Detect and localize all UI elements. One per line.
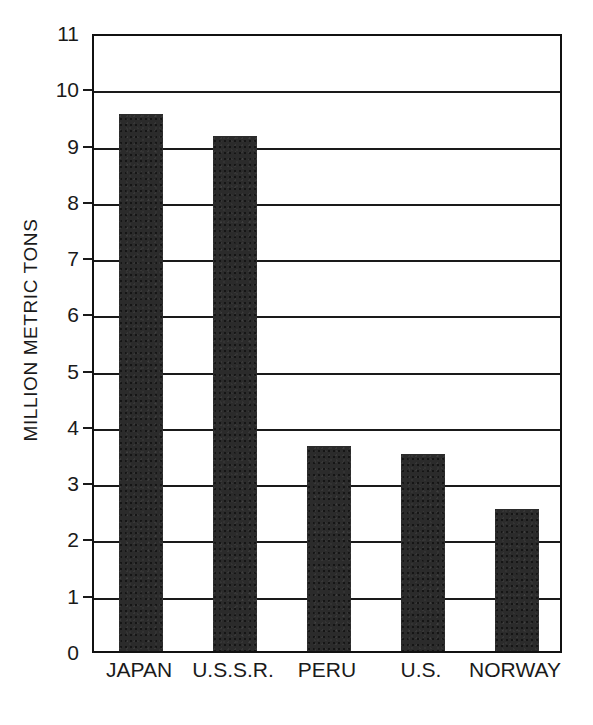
y-axis-tick-layer: 01234567891011 xyxy=(0,0,92,725)
gridline xyxy=(94,148,560,150)
y-axis-tick-label: 7 xyxy=(31,248,79,269)
bar xyxy=(119,114,163,651)
y-axis-tick-mark xyxy=(83,314,92,316)
gridline xyxy=(94,260,560,262)
y-axis-tick-mark xyxy=(83,483,92,485)
gridline xyxy=(94,373,560,375)
y-axis-tick-mark xyxy=(83,596,92,598)
bar xyxy=(401,454,445,651)
gridline xyxy=(94,91,560,93)
y-axis-tick-label: 2 xyxy=(31,529,79,550)
x-axis-label-layer: JAPANU.S.S.R.PERUU.S.NORWAY xyxy=(92,658,562,698)
y-axis-tick-label: 8 xyxy=(31,192,79,213)
y-axis-tick-mark xyxy=(83,146,92,148)
bar xyxy=(213,136,257,651)
y-axis-tick-label: 9 xyxy=(31,136,79,157)
y-axis-tick-label: 1 xyxy=(31,586,79,607)
bar xyxy=(307,446,351,651)
y-axis-tick-mark xyxy=(83,258,92,260)
x-axis-label: PERU xyxy=(298,658,356,681)
y-axis-tick-label: 10 xyxy=(31,79,79,100)
x-axis-label: U.S. xyxy=(401,658,442,681)
plot-area xyxy=(92,34,562,653)
y-axis-tick-label: 3 xyxy=(31,473,79,494)
y-axis-tick-mark xyxy=(83,202,92,204)
y-axis-tick-label: 11 xyxy=(31,23,79,44)
y-axis-tick-label: 5 xyxy=(31,361,79,382)
y-axis-tick-label: 4 xyxy=(31,417,79,438)
gridline xyxy=(94,429,560,431)
y-axis-tick-label: 0 xyxy=(31,642,79,663)
y-axis-tick-mark xyxy=(83,427,92,429)
y-axis-tick-mark xyxy=(83,89,92,91)
gridline xyxy=(94,204,560,206)
y-axis-tick-mark xyxy=(83,539,92,541)
y-axis-tick-mark xyxy=(83,371,92,373)
x-axis-label: U.S.S.R. xyxy=(192,658,274,681)
bar xyxy=(495,509,539,651)
x-axis-label: JAPAN xyxy=(106,658,172,681)
gridline xyxy=(94,316,560,318)
bar-chart: MILLION METRIC TONS 01234567891011 JAPAN… xyxy=(0,0,593,725)
y-axis-tick-label: 6 xyxy=(31,304,79,325)
x-axis-label: NORWAY xyxy=(469,658,561,681)
